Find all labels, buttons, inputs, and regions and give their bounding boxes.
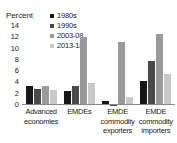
bar[interactable] [42, 86, 49, 105]
y-axis-title: Percent [6, 11, 33, 20]
legend-item[interactable]: 1980s [50, 11, 120, 21]
legend-label: 1980s [57, 12, 76, 20]
bar-chart: Percent 1980s1990s2003-082013-18 0246810… [0, 0, 177, 143]
y-tick-label: 4 [5, 78, 19, 86]
bar[interactable] [26, 86, 33, 105]
bar[interactable] [156, 34, 163, 105]
y-tick-label: 14 [5, 22, 19, 30]
y-tick-label: 8 [5, 56, 19, 64]
x-axis-labels: Advanced economiesEMDEsEMDE commodity ex… [22, 107, 175, 136]
bar[interactable] [164, 74, 171, 105]
x-axis-label: EMDE commodity exporters [99, 107, 137, 136]
bar[interactable] [80, 37, 87, 105]
bar-group [22, 26, 60, 105]
y-tick-label: 10 [5, 45, 19, 53]
x-axis-label: EMDE commodity importers [137, 107, 175, 136]
bar[interactable] [72, 86, 79, 105]
bar[interactable] [118, 42, 125, 105]
bar[interactable] [148, 61, 155, 105]
y-tick-label: 0 [5, 101, 19, 109]
bar[interactable] [140, 81, 147, 105]
x-axis-label: EMDEs [60, 107, 98, 136]
y-tick-label: 12 [5, 33, 19, 41]
legend-swatch-icon [50, 14, 54, 18]
y-tick-label: 6 [5, 67, 19, 75]
bar-group [99, 26, 137, 105]
bar-groups [22, 26, 175, 105]
bar[interactable] [34, 89, 41, 105]
bar-group [137, 26, 175, 105]
x-axis-line [22, 104, 175, 105]
bar-group [60, 26, 98, 105]
bar[interactable] [50, 90, 57, 105]
bar[interactable] [64, 91, 71, 105]
y-tick-label: 2 [5, 90, 19, 98]
x-axis-label: Advanced economies [22, 107, 60, 136]
bar[interactable] [88, 83, 95, 105]
plot-area: 02468101214 [22, 26, 175, 105]
